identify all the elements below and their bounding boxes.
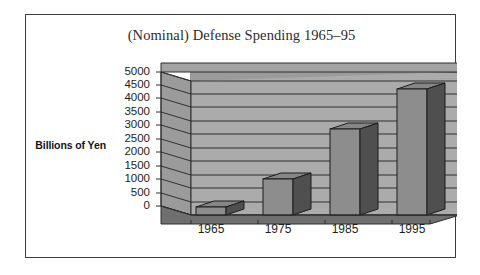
- y-tick-label: 4000: [104, 92, 150, 103]
- y-tick-label: 3000: [104, 119, 150, 130]
- plot-area: 5000 4500 4000 3500 3000 2500 2000 1500 …: [26, 15, 457, 259]
- figure-frame: (Nominal) Defense Spending 1965–95: [25, 14, 456, 258]
- y-tick-label: 500: [104, 187, 150, 198]
- bar-front-face: [196, 207, 226, 215]
- bar-1975[interactable]: [263, 173, 311, 215]
- y-tick-label: 3500: [104, 106, 150, 117]
- y-tick-label: 5000: [104, 66, 150, 77]
- bar-front-face: [330, 129, 360, 215]
- y-axis-title: Billions of Yen: [28, 139, 106, 151]
- y-tick-label: 2500: [104, 133, 150, 144]
- y-tick-label: 2000: [104, 146, 150, 157]
- x-tick-label-1995: 1995: [377, 222, 447, 236]
- y-tick-label: 1500: [104, 160, 150, 171]
- x-tick-label-1985: 1985: [310, 222, 380, 236]
- y-tick-label: 4500: [104, 79, 150, 90]
- bar-side-face: [360, 123, 378, 215]
- bar-front-face: [397, 89, 427, 215]
- bar-1985[interactable]: [330, 123, 378, 215]
- x-tick-label-1965: 1965: [176, 222, 246, 236]
- bar-side-face: [293, 173, 311, 215]
- x-tick-label-1975: 1975: [243, 222, 313, 236]
- bar-1995[interactable]: [397, 83, 445, 215]
- y-tick-label: 1000: [104, 173, 150, 184]
- y-tick-marks: [156, 72, 161, 206]
- y-tick-label: 0: [104, 200, 150, 211]
- bar-side-face: [427, 83, 445, 215]
- wall-ceiling: [161, 63, 457, 72]
- bar-front-face: [263, 179, 293, 215]
- y-tick-labels: 5000 4500 4000 3500 3000 2500 2000 1500 …: [104, 15, 150, 259]
